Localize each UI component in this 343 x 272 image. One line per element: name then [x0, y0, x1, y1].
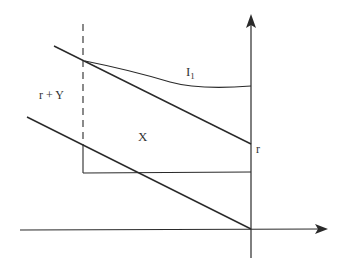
label-x: X	[138, 129, 148, 144]
diagram-canvas: I1 r + Y X r	[0, 0, 343, 272]
upper-budget-line	[54, 46, 251, 144]
x-axis	[20, 229, 322, 230]
label-r: r	[256, 142, 260, 156]
label-r-plus-y: r + Y	[39, 88, 64, 102]
rect-bottom-edge	[83, 172, 251, 173]
label-indifference-curve: I1	[186, 64, 195, 81]
